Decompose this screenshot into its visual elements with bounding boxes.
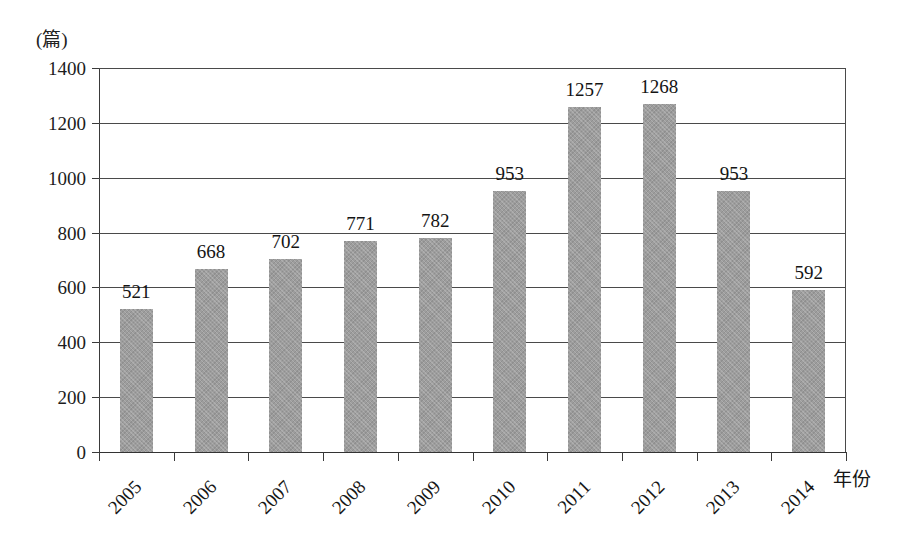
bar-value-label: 782 [395,211,475,230]
x-tick-label: 2010 [434,477,518,536]
y-tick-label: 400 [0,333,86,352]
x-tick-mark [248,452,249,461]
bar-value-label: 592 [769,263,849,282]
x-tick-mark [398,452,399,461]
x-tick-mark [323,452,324,461]
y-tick-mark [92,178,99,179]
bar [419,238,452,452]
x-tick-label: 2014 [733,477,817,536]
x-tick-label: 2005 [61,477,145,536]
x-tick-mark [174,452,175,461]
gridline [99,123,846,124]
x-tick-label: 2006 [136,477,220,536]
bar [269,259,302,452]
x-tick-mark [473,452,474,461]
x-tick-mark [697,452,698,461]
bar [195,269,228,452]
x-tick-mark [99,452,100,461]
x-tick-label: 2008 [285,477,369,536]
bar [120,309,153,452]
bar-value-label: 702 [246,232,326,251]
bar [568,107,601,452]
y-tick-mark [92,233,99,234]
bar [792,290,825,452]
y-tick-label: 1400 [0,59,86,78]
x-tick-mark [547,452,548,461]
bar-value-label: 771 [320,214,400,233]
y-tick-label: 1000 [0,169,86,188]
bar-chart-figure: (篇) 0200400600800100012001400 5216687027… [0,0,920,536]
y-tick-mark [92,342,99,343]
x-tick-label: 2011 [509,477,593,536]
y-axis-unit-label: (篇) [36,30,68,49]
y-tick-mark [92,68,99,69]
bar-value-label: 521 [96,282,176,301]
y-tick-label: 600 [0,278,86,297]
x-tick-label: 2007 [210,477,294,536]
bar [643,104,676,452]
y-tick-label: 800 [0,224,86,243]
gridline [99,68,846,69]
bar [493,191,526,452]
y-tick-mark [92,123,99,124]
x-axis-title: 年份 [833,470,871,489]
x-tick-mark [846,452,847,461]
x-tick-mark [622,452,623,461]
y-tick-mark [92,452,99,453]
bar-value-label: 1268 [619,77,699,96]
x-tick-label: 2012 [584,477,668,536]
x-tick-mark [771,452,772,461]
x-tick-label: 2013 [659,477,743,536]
y-tick-label: 1200 [0,114,86,133]
x-tick-label: 2009 [360,477,444,536]
bar-value-label: 668 [171,242,251,261]
y-tick-label: 200 [0,388,86,407]
bar-value-label: 953 [470,164,550,183]
bar-value-label: 1257 [545,80,625,99]
y-tick-label: 0 [0,443,86,462]
bar-value-label: 953 [694,164,774,183]
y-tick-mark [92,397,99,398]
bar [717,191,750,452]
bar [344,241,377,452]
